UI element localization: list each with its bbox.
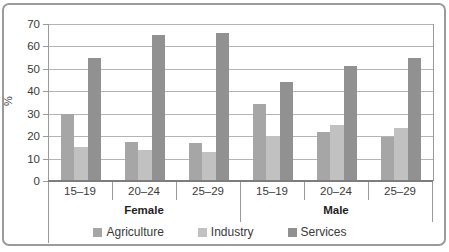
legend-item-agriculture: Agriculture [93, 225, 163, 239]
legend-label-agriculture: Agriculture [106, 225, 163, 239]
y-axis-title: % [2, 96, 14, 106]
x-axis-category-label: 15–19 [240, 185, 304, 197]
y-axis-tick [43, 91, 48, 92]
bar-industry-2 [138, 150, 152, 181]
x-axis-category-label: 15–19 [48, 185, 112, 197]
legend-label-industry: Industry [211, 225, 254, 239]
legend-label-services: Services [301, 225, 347, 239]
plot-area [48, 24, 434, 181]
bar-agriculture-2 [125, 142, 139, 181]
bar-services-4 [280, 82, 294, 181]
gender-group-label-male: Male [240, 204, 432, 216]
bar-agriculture-3 [189, 143, 203, 181]
legend-item-services: Services [288, 225, 347, 239]
legend-swatch-services [288, 228, 297, 237]
y-axis-tick-label: 70 [14, 18, 40, 30]
bar-agriculture-5 [317, 132, 331, 181]
y-axis-tick-label: 20 [14, 130, 40, 142]
y-axis-tick [43, 136, 48, 137]
y-axis-tick [43, 24, 48, 25]
y-axis-tick-label: 10 [14, 153, 40, 165]
y-axis-tick-label: 0 [14, 175, 40, 187]
y-axis-tick [43, 69, 48, 70]
bar-agriculture-1 [61, 114, 75, 181]
legend-swatch-industry [198, 228, 207, 237]
bar-agriculture-4 [253, 104, 267, 181]
bar-services-1 [88, 58, 102, 181]
gridline-20 [49, 136, 433, 137]
y-axis-tick-label: 60 [14, 40, 40, 52]
x-axis-category-label: 20–24 [304, 185, 368, 197]
y-axis-tick [43, 114, 48, 115]
y-axis-tick-label: 40 [14, 85, 40, 97]
x-axis-separator [432, 181, 433, 222]
gender-group-label-female: Female [48, 204, 240, 216]
y-axis-tick [43, 159, 48, 160]
gridline-50 [49, 69, 433, 70]
gridline-30 [49, 114, 433, 115]
y-axis-tick-label: 30 [14, 108, 40, 120]
bar-industry-1 [74, 147, 88, 181]
bar-services-2 [152, 35, 166, 181]
bar-industry-4 [266, 136, 280, 181]
bar-industry-6 [394, 128, 408, 181]
bar-services-5 [344, 66, 358, 182]
gridline-60 [49, 46, 433, 47]
bar-services-6 [408, 58, 422, 181]
x-axis-baseline [48, 180, 433, 182]
x-axis-category-label: 25–29 [368, 185, 432, 197]
legend: AgricultureIndustryServices [20, 224, 420, 240]
bar-agriculture-6 [381, 137, 395, 181]
legend-swatch-agriculture [93, 228, 102, 237]
gridline-70 [49, 24, 433, 25]
x-axis-category-label: 20–24 [112, 185, 176, 197]
gridline-10 [49, 159, 433, 160]
x-axis-category-label: 25–29 [176, 185, 240, 197]
legend-item-industry: Industry [198, 225, 254, 239]
chart-figure: % 010203040506070 15–1920–2425–2915–1920… [0, 0, 449, 252]
gridline-40 [49, 91, 433, 92]
bar-industry-3 [202, 152, 216, 181]
bar-industry-5 [330, 125, 344, 181]
y-axis-tick [43, 46, 48, 47]
y-axis-tick-label: 50 [14, 63, 40, 75]
bar-services-3 [216, 33, 230, 181]
